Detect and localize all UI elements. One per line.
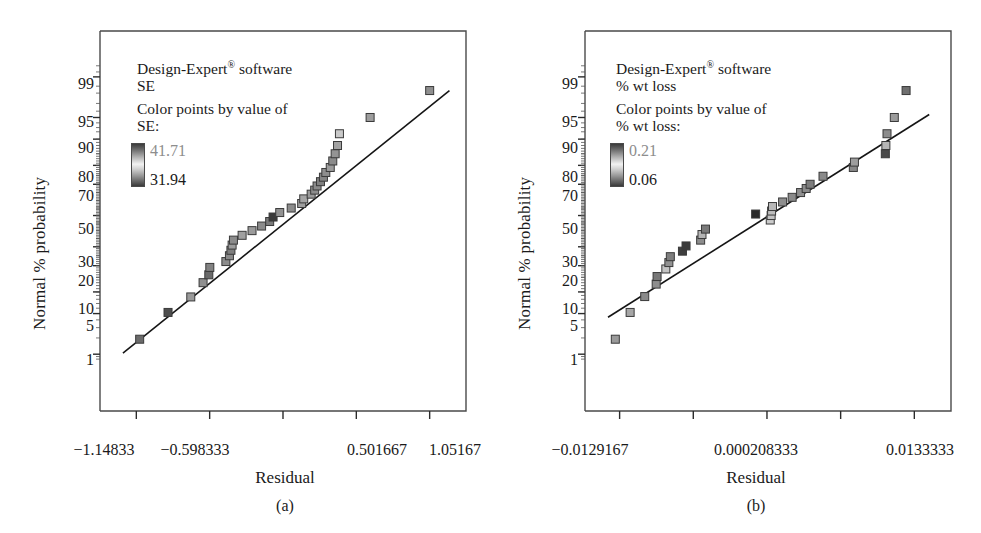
data-point — [164, 308, 172, 316]
data-point — [806, 180, 814, 188]
data-point — [641, 293, 649, 301]
data-point — [187, 293, 195, 301]
data-point — [666, 253, 674, 261]
data-point — [258, 222, 266, 230]
data-point — [426, 87, 434, 95]
plot-canvas-a — [0, 0, 490, 533]
data-point — [287, 204, 295, 212]
panel-b: Normal % probability 99 95 90 80 70 50 3… — [490, 0, 981, 533]
data-point — [652, 280, 660, 288]
data-point — [206, 263, 214, 271]
data-point — [334, 142, 342, 150]
data-point — [331, 150, 339, 158]
data-point — [626, 308, 634, 316]
data-point — [682, 242, 690, 250]
data-point — [752, 210, 760, 218]
data-point — [701, 225, 709, 233]
data-point — [611, 335, 619, 343]
data-point — [276, 209, 284, 217]
data-point — [779, 198, 787, 206]
data-point — [366, 113, 374, 121]
data-point — [890, 113, 898, 121]
data-point — [205, 271, 213, 279]
panel-a: Normal % probability 99 95 90 80 70 50 3… — [0, 0, 490, 533]
data-point — [902, 87, 910, 95]
data-point — [300, 195, 308, 203]
data-point — [199, 279, 207, 287]
data-point — [335, 130, 343, 138]
data-point — [653, 273, 661, 281]
data-point — [248, 227, 256, 235]
plot-canvas-b — [490, 0, 981, 533]
data-point — [883, 130, 891, 138]
figure-container: Normal % probability 99 95 90 80 70 50 3… — [0, 0, 981, 533]
data-point — [768, 203, 776, 211]
data-point — [238, 231, 246, 239]
data-point — [229, 236, 237, 244]
data-point — [850, 158, 858, 166]
data-point — [788, 193, 796, 201]
data-point — [882, 142, 890, 150]
data-point — [136, 335, 144, 343]
data-point — [881, 150, 889, 158]
data-point — [819, 172, 827, 180]
